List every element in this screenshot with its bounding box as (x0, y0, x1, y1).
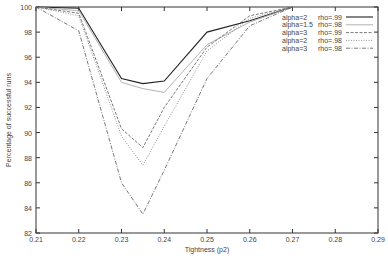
x-tick-label: 0.25 (200, 236, 214, 243)
legend-alpha-label: alpha=2 (282, 37, 307, 45)
series-line-4 (36, 7, 293, 165)
series-line-5 (36, 7, 293, 214)
line-chart: 8284868890929496981000.210.220.230.240.2… (0, 0, 388, 260)
x-axis-label: Tightness (p2) (185, 246, 229, 254)
legend-rho-label: rho=.98 (318, 37, 342, 44)
y-tick-label: 86 (24, 180, 32, 187)
x-tick-label: 0.24 (157, 236, 171, 243)
y-tick-label: 84 (24, 205, 32, 212)
x-tick-label: 0.28 (328, 236, 342, 243)
legend-rho-label: rho=.98 (318, 21, 342, 28)
chart-canvas: 8284868890929496981000.210.220.230.240.2… (0, 0, 388, 260)
legend-alpha-label: alpha=3 (282, 29, 307, 37)
legend-rho-label: rho=.99 (318, 29, 342, 36)
y-tick-label: 96 (24, 54, 32, 61)
legend: alpha=2rho=.99alpha=1.5rho=.98alpha=3rho… (282, 14, 373, 53)
series-lines (36, 7, 293, 214)
y-tick-label: 98 (24, 29, 32, 36)
legend-alpha-label: alpha=2 (282, 14, 307, 22)
series-line-1 (36, 7, 293, 84)
y-tick-label: 88 (24, 155, 32, 162)
legend-rho-label: rho=.99 (318, 14, 342, 21)
legend-rho-label: rho=.98 (318, 45, 342, 52)
y-axis-label: Percentage of successful runs (5, 73, 13, 167)
legend-alpha-label: alpha=1.5 (282, 21, 313, 29)
x-tick-label: 0.21 (29, 236, 43, 243)
x-tick-label: 0.23 (115, 236, 129, 243)
x-tick-label: 0.29 (371, 236, 385, 243)
x-tick-label: 0.27 (286, 236, 300, 243)
x-tick-label: 0.22 (72, 236, 86, 243)
y-tick-label: 94 (24, 79, 32, 86)
y-tick-label: 90 (24, 130, 32, 137)
x-tick-label: 0.26 (243, 236, 257, 243)
y-tick-label: 92 (24, 104, 32, 111)
y-tick-label: 100 (20, 4, 32, 11)
legend-alpha-label: alpha=3 (282, 45, 307, 53)
